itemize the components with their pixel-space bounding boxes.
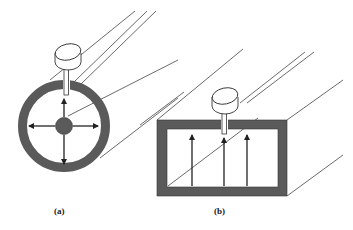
panel-a [23, 11, 179, 168]
panel-b-label: (b) [214, 206, 225, 216]
panel-b [140, 49, 343, 196]
waveguide-diagram: (a) (b) [0, 0, 353, 230]
inner-conductor [56, 118, 73, 135]
panel-a-label: (a) [54, 206, 65, 216]
vertical-field-arrows [192, 135, 247, 186]
